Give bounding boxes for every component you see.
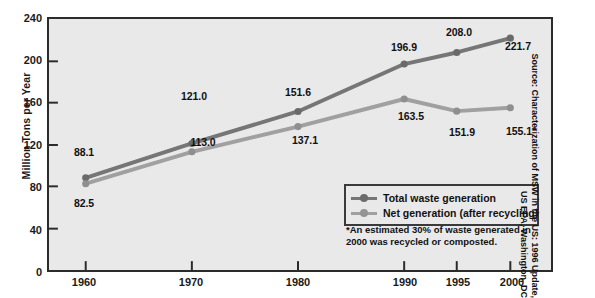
data-label: 121.0 [181,90,207,102]
data-label: 208.0 [446,26,472,38]
x-tick-1995: 1995 [446,276,470,288]
data-point [294,108,301,115]
data-point [188,148,195,155]
x-axis-ticks [86,261,511,270]
data-label: 137.1 [292,134,318,146]
data-label: 163.5 [398,110,424,122]
y-tick-200: 200 [8,54,42,66]
legend-marker-total-icon [351,192,377,204]
x-tick-1960: 1960 [72,276,96,288]
data-label: 88.1 [74,146,94,158]
source-line-2: US EPA, Washington, DC [518,0,529,298]
source-line-1: Source: Characterization of MSW in the U… [529,0,540,298]
data-point [401,61,408,68]
data-label: 151.9 [449,126,475,138]
clipped-title-remnant [165,0,365,5]
chart-container: Million Tons per Year 240 200 160 120 80… [0,0,595,298]
data-label: 151.6 [285,86,311,98]
y-tick-160: 160 [8,96,42,108]
legend-label-total: Total waste generation [383,192,496,204]
y-axis-ticks [49,61,58,228]
x-tick-1990: 1990 [393,276,417,288]
data-point [82,180,89,187]
x-tick-1970: 1970 [179,276,203,288]
y-axis-tick-labels: 240 200 160 120 80 40 0 [4,0,42,298]
legend-marker-net-icon [351,207,377,219]
y-tick-40: 40 [8,224,42,236]
x-tick-1980: 1980 [286,276,310,288]
data-label: 196.9 [391,41,417,53]
data-label: 113.0 [190,136,215,148]
y-tick-120: 120 [8,139,42,151]
y-tick-240: 240 [8,12,42,24]
y-tick-80: 80 [8,181,42,193]
data-point [453,108,460,115]
data-point [294,123,301,130]
series-layer [82,35,514,188]
data-label: 82.5 [74,197,94,209]
data-point [401,95,408,102]
source-note: Source: Characterization of MSW in the U… [499,0,541,298]
data-point [453,49,460,56]
